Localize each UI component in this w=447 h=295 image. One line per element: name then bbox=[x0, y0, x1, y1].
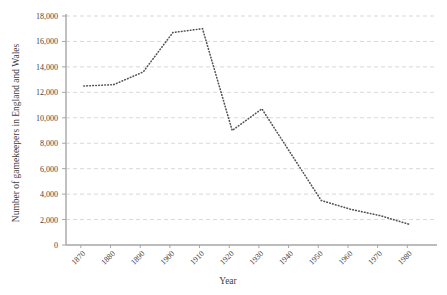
y-tick-label: 18,000 bbox=[36, 12, 58, 21]
y-tick-label: 10,000 bbox=[36, 114, 58, 123]
chart-container: 02,0004,0006,0008,00010,00012,00014,0001… bbox=[0, 0, 447, 295]
y-tick-label: 0 bbox=[54, 241, 58, 250]
y-tick-label: 6,000 bbox=[40, 165, 58, 174]
chart-svg: 02,0004,0006,0008,00010,00012,00014,0001… bbox=[0, 0, 447, 295]
chart-background bbox=[0, 0, 447, 295]
y-tick-label: 8,000 bbox=[40, 139, 58, 148]
y-tick-label: 16,000 bbox=[36, 37, 58, 46]
y-tick-label: 14,000 bbox=[36, 63, 58, 72]
x-axis-title: Year bbox=[219, 276, 237, 286]
y-axis-title: Number of gamekeepers in England and Wal… bbox=[11, 43, 21, 222]
y-tick-label: 12,000 bbox=[36, 88, 58, 97]
y-tick-label: 4,000 bbox=[40, 190, 58, 199]
y-tick-label: 2,000 bbox=[40, 216, 58, 225]
